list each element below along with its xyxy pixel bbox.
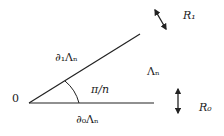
origin-label: 0 [12, 92, 19, 105]
angle-arc [65, 81, 79, 103]
sector-diagram: 0 π/n ∂₀Λₙ ∂₁Λₙ Λₙ R₁ R₀ [0, 0, 224, 136]
top-edge-label: ∂₁Λₙ [55, 51, 78, 64]
bottom-edge-label: ∂₀Λₙ [76, 113, 99, 126]
top-edge [29, 34, 140, 103]
angle-label: π/n [90, 83, 109, 96]
rotation-bottom-label: R₀ [198, 101, 212, 114]
rotation-top-label: R₁ [182, 9, 196, 22]
region-label: Λₙ [146, 65, 160, 78]
rotation-arrow-top-icon [155, 10, 166, 29]
